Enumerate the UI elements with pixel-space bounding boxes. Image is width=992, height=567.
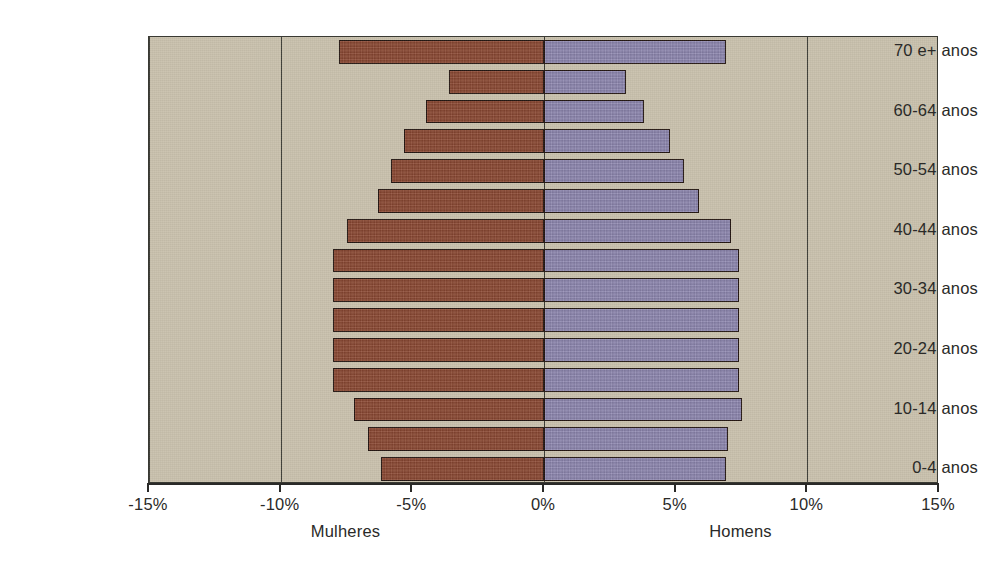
x-axis-tick--10 [279,483,281,492]
bar-row [149,129,937,153]
x-axis-tick-label--5: -5% [396,495,426,514]
bar-mulheres-45-49-anos [378,189,544,213]
bar-row [149,338,937,362]
x-axis-tick--15 [147,483,149,492]
x-axis-tick-label--15: -15% [128,495,167,514]
x-axis-tick-0 [542,483,544,492]
bar-row [149,457,937,481]
bar-mulheres-15-19-anos [333,368,544,392]
bar-row [149,40,937,64]
bar-row [149,249,937,273]
bar-homens-60-64-anos [544,100,644,124]
x-axis-tick--5 [410,483,412,492]
y-axis-label-60-64-anos: 60-64 anos [893,101,978,120]
bar-row [149,427,937,451]
bar-row [149,368,937,392]
x-axis-tick-10 [805,483,807,492]
bar-mulheres-65-69-anos [449,70,544,94]
bar-homens-55-59-anos [544,129,670,153]
bar-homens-50-54-anos [544,159,684,183]
bar-row [149,219,937,243]
bar-homens-5-9-anos [544,427,728,451]
plot-area [148,36,938,483]
bar-row [149,100,937,124]
y-axis-label-20-24-anos: 20-24 anos [893,339,978,358]
population-pyramid-chart: 0-4 anos10-14 anos20-24 anos30-34 anos40… [0,0,992,567]
bar-mulheres-5-9-anos [368,427,544,451]
bar-mulheres-40-44-anos [347,219,545,243]
x-axis-tick-15 [937,483,939,492]
y-axis-label-70-e+-anos: 70 e+ anos [894,41,978,60]
bar-mulheres-35-39-anos [333,249,544,273]
bar-row [149,70,937,94]
bar-row [149,189,937,213]
bar-mulheres-0-4-anos [381,457,544,481]
bar-homens-25-29-anos [544,308,739,332]
axis-caption-homens: Homens [709,522,772,541]
y-axis-label-30-34-anos: 30-34 anos [893,279,978,298]
bar-homens-35-39-anos [544,249,739,273]
bar-homens-30-34-anos [544,278,739,302]
x-axis-tick-5 [674,483,676,492]
bar-row [149,278,937,302]
bar-homens-65-69-anos [544,70,626,94]
bar-mulheres-70-e+-anos [339,40,544,64]
y-axis-label-0-4-anos: 0-4 anos [912,458,978,477]
bar-mulheres-30-34-anos [333,278,544,302]
bar-mulheres-25-29-anos [333,308,544,332]
bar-row [149,308,937,332]
bar-mulheres-10-14-anos [354,398,544,422]
y-axis-label-10-14-anos: 10-14 anos [893,399,978,418]
bar-homens-40-44-anos [544,219,731,243]
x-axis-tick-label-0: 0% [531,495,555,514]
bar-homens-10-14-anos [544,398,742,422]
bar-mulheres-50-54-anos [391,159,544,183]
bar-row [149,398,937,422]
bar-homens-15-19-anos [544,368,739,392]
y-axis-label-40-44-anos: 40-44 anos [893,220,978,239]
x-axis-tick-label--10: -10% [260,495,299,514]
bar-homens-45-49-anos [544,189,699,213]
x-axis-tick-label-15: 15% [921,495,955,514]
bar-mulheres-20-24-anos [333,338,544,362]
x-axis-tick-label-5: 5% [663,495,687,514]
bar-homens-0-4-anos [544,457,726,481]
bar-mulheres-60-64-anos [426,100,545,124]
axis-caption-mulheres: Mulheres [311,522,380,541]
bar-homens-70-e+-anos [544,40,726,64]
bar-mulheres-55-59-anos [404,129,544,153]
x-axis-tick-label-10: 10% [790,495,824,514]
bar-homens-20-24-anos [544,338,739,362]
y-axis-label-50-54-anos: 50-54 anos [893,160,978,179]
bar-row [149,159,937,183]
